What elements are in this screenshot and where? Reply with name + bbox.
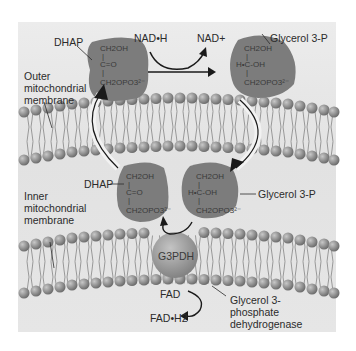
g3p-bottom-label: Glycerol 3-P	[258, 188, 316, 200]
fadh2-label: FAD•H2	[150, 312, 188, 324]
dhap-top-label: DHAP	[54, 36, 83, 48]
g3pdh-label: G3PDH	[158, 250, 194, 262]
outer-membrane-label-1: Outer	[24, 70, 50, 82]
g3pdh-cycle-arrow	[160, 216, 192, 234]
nadh-reaction-arrow	[148, 47, 216, 77]
enzyme-name-label-3: dehydrogenase	[230, 318, 302, 330]
enzyme-name-label-2: phosphate	[230, 306, 279, 318]
inner-membrane-label-1: Inner	[24, 190, 48, 202]
g3p-top-label: Glycerol 3-P	[270, 32, 328, 44]
enzyme-name-label-1: Glycerol 3-	[230, 294, 281, 306]
inner-membrane-label-3: membrane	[24, 214, 74, 226]
outer-membrane-label-2: mitochondrial	[24, 82, 86, 94]
nadh-label: NAD•H	[134, 32, 167, 44]
dhap-bottom-label: DHAP	[84, 178, 113, 190]
outer-membrane-label-3: membrane	[24, 94, 74, 106]
nad-plus-label: NAD+	[197, 32, 225, 44]
fad-label: FAD	[160, 288, 180, 300]
inner-membrane-label-2: mitochondrial	[24, 202, 86, 214]
